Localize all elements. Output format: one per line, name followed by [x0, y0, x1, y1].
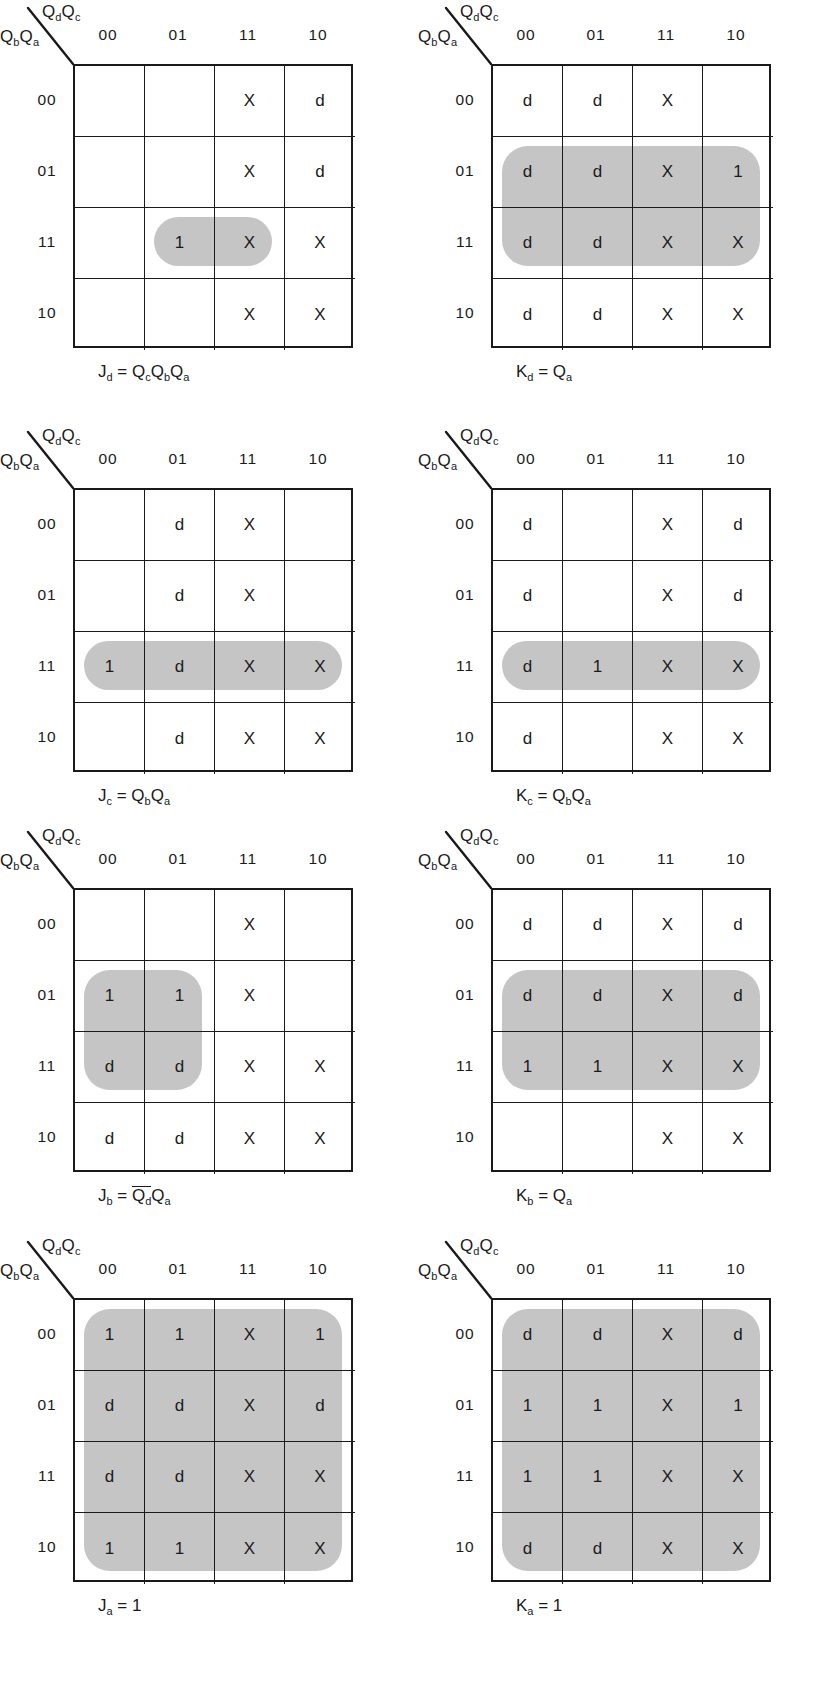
kmap-cell[interactable] — [563, 561, 633, 632]
kmap-cell[interactable]: X — [285, 208, 355, 279]
kmap-cell[interactable]: X — [215, 632, 285, 703]
kmap-cell[interactable]: 1 — [563, 1442, 633, 1513]
kmap-cell[interactable]: X — [703, 703, 773, 774]
kmap-cell[interactable]: X — [285, 1442, 355, 1513]
kmap-cell[interactable]: 1 — [493, 1442, 563, 1513]
kmap-cell[interactable] — [285, 561, 355, 632]
kmap-cell[interactable]: d — [493, 961, 563, 1032]
kmap-cell[interactable]: X — [633, 1300, 703, 1371]
kmap-cell[interactable]: X — [633, 561, 703, 632]
kmap-cell[interactable] — [75, 66, 145, 137]
kmap-cell[interactable] — [145, 137, 215, 208]
kmap-cell[interactable]: d — [493, 490, 563, 561]
kmap-cell[interactable] — [75, 890, 145, 961]
kmap-cell[interactable]: X — [215, 137, 285, 208]
kmap-cell[interactable] — [75, 703, 145, 774]
kmap-cell[interactable] — [75, 490, 145, 561]
kmap-cell[interactable]: 1 — [563, 1371, 633, 1442]
kmap-cell[interactable]: X — [703, 1513, 773, 1584]
kmap-cell[interactable]: X — [633, 890, 703, 961]
kmap-cell[interactable]: d — [703, 890, 773, 961]
kmap-cell[interactable]: X — [215, 890, 285, 961]
kmap-cell[interactable]: d — [493, 279, 563, 350]
kmap-cell[interactable]: 1 — [75, 961, 145, 1032]
kmap-cell[interactable]: d — [285, 137, 355, 208]
kmap-cell[interactable]: d — [75, 1371, 145, 1442]
kmap-cell[interactable]: d — [285, 66, 355, 137]
kmap-cell[interactable] — [285, 490, 355, 561]
kmap-cell[interactable]: X — [285, 279, 355, 350]
kmap-cell[interactable]: X — [703, 279, 773, 350]
kmap-cell[interactable]: X — [633, 1103, 703, 1174]
kmap-cell[interactable]: X — [285, 1032, 355, 1103]
kmap-cell[interactable]: X — [215, 561, 285, 632]
kmap-cell[interactable]: 1 — [285, 1300, 355, 1371]
kmap-cell[interactable]: X — [633, 208, 703, 279]
kmap-cell[interactable]: X — [633, 137, 703, 208]
kmap-cell[interactable]: d — [703, 961, 773, 1032]
kmap-cell[interactable]: d — [145, 703, 215, 774]
kmap-cell[interactable]: X — [703, 1103, 773, 1174]
kmap-cell[interactable]: d — [563, 1513, 633, 1584]
kmap-cell[interactable]: d — [563, 961, 633, 1032]
kmap-cell[interactable]: 1 — [75, 1300, 145, 1371]
kmap-cell[interactable]: X — [633, 490, 703, 561]
kmap-cell[interactable]: 1 — [493, 1032, 563, 1103]
kmap-cell[interactable]: 1 — [145, 1300, 215, 1371]
kmap-cell[interactable]: X — [633, 1032, 703, 1103]
kmap-cell[interactable] — [145, 66, 215, 137]
kmap-cell[interactable]: 1 — [145, 208, 215, 279]
kmap-cell[interactable]: d — [563, 279, 633, 350]
kmap-cell[interactable]: d — [145, 632, 215, 703]
kmap-cell[interactable]: X — [633, 1442, 703, 1513]
kmap-cell[interactable] — [703, 66, 773, 137]
kmap-cell[interactable] — [145, 279, 215, 350]
kmap-cell[interactable]: d — [493, 208, 563, 279]
kmap-cell[interactable]: d — [75, 1103, 145, 1174]
kmap-cell[interactable]: 1 — [563, 632, 633, 703]
kmap-cell[interactable]: d — [145, 1032, 215, 1103]
kmap-cell[interactable]: X — [215, 1032, 285, 1103]
kmap-cell[interactable]: d — [493, 632, 563, 703]
kmap-cell[interactable]: d — [493, 561, 563, 632]
kmap-cell[interactable] — [75, 137, 145, 208]
kmap-cell[interactable]: X — [215, 208, 285, 279]
kmap-cell[interactable]: X — [633, 703, 703, 774]
kmap-cell[interactable]: d — [75, 1442, 145, 1513]
kmap-cell[interactable] — [285, 961, 355, 1032]
kmap-cell[interactable] — [75, 279, 145, 350]
kmap-cell[interactable]: X — [285, 1103, 355, 1174]
kmap-cell[interactable]: d — [145, 1371, 215, 1442]
kmap-cell[interactable]: X — [215, 1513, 285, 1584]
kmap-cell[interactable]: X — [633, 1513, 703, 1584]
kmap-cell[interactable]: d — [285, 1371, 355, 1442]
kmap-cell[interactable]: X — [703, 1032, 773, 1103]
kmap-cell[interactable]: 1 — [703, 137, 773, 208]
kmap-cell[interactable] — [75, 208, 145, 279]
kmap-cell[interactable]: 1 — [563, 1032, 633, 1103]
kmap-cell[interactable] — [75, 561, 145, 632]
kmap-cell[interactable]: d — [493, 890, 563, 961]
kmap-cell[interactable]: X — [215, 66, 285, 137]
kmap-cell[interactable]: X — [703, 632, 773, 703]
kmap-cell[interactable]: X — [215, 1103, 285, 1174]
kmap-cell[interactable]: X — [215, 961, 285, 1032]
kmap-cell[interactable]: d — [493, 1300, 563, 1371]
kmap-cell[interactable]: 1 — [75, 1513, 145, 1584]
kmap-cell[interactable]: X — [215, 1300, 285, 1371]
kmap-cell[interactable]: d — [493, 703, 563, 774]
kmap-cell[interactable]: X — [633, 632, 703, 703]
kmap-cell[interactable]: X — [633, 961, 703, 1032]
kmap-cell[interactable]: X — [285, 632, 355, 703]
kmap-cell[interactable]: d — [493, 1513, 563, 1584]
kmap-cell[interactable]: d — [703, 561, 773, 632]
kmap-cell[interactable]: X — [215, 1371, 285, 1442]
kmap-cell[interactable]: 1 — [145, 1513, 215, 1584]
kmap-cell[interactable]: d — [563, 137, 633, 208]
kmap-cell[interactable]: X — [215, 703, 285, 774]
kmap-cell[interactable] — [563, 490, 633, 561]
kmap-cell[interactable]: d — [145, 490, 215, 561]
kmap-cell[interactable]: d — [563, 1300, 633, 1371]
kmap-cell[interactable] — [563, 703, 633, 774]
kmap-cell[interactable]: d — [563, 890, 633, 961]
